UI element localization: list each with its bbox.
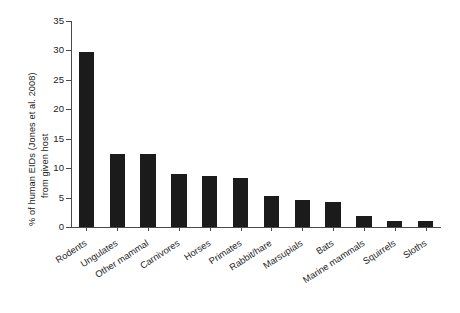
bar-marine-mammals	[356, 216, 371, 227]
y-tick-label-text: 35	[38, 16, 64, 26]
y-tick-label-text: 20	[38, 104, 64, 114]
y-tick-label-text: 25	[38, 75, 64, 85]
y-tick-label-text: 5	[38, 193, 64, 203]
x-tick-11	[426, 227, 427, 231]
y-axis-title-line-1: % of human EIDs (Jones et al. 2008)	[27, 72, 37, 226]
y-tick-label-20: 20	[36, 104, 64, 114]
x-tick-label-squirrels: Squirrels	[361, 238, 397, 266]
y-tick-label-text: 30	[38, 45, 64, 55]
bar-rodents	[79, 52, 94, 227]
y-tick-label-30: 30	[36, 45, 64, 55]
x-tick-2	[148, 227, 149, 231]
bar-sloths	[418, 221, 433, 227]
y-tick-label-text: 10	[38, 163, 64, 173]
y-tick-label-15: 15	[36, 134, 64, 144]
y-tick-label-25: 25	[36, 75, 64, 85]
bar-rabbit-hare	[264, 196, 279, 227]
y-tick-0	[66, 227, 72, 228]
bar-primates	[233, 178, 248, 227]
x-tick-1	[117, 227, 118, 231]
bar-carnivores	[171, 174, 186, 227]
x-tick-label-bats: Bats	[314, 238, 335, 257]
x-axis-line	[71, 227, 441, 228]
bar-series	[71, 21, 441, 227]
y-tick-label-0: 0	[36, 222, 64, 232]
bar-other-mammal	[140, 154, 155, 227]
bar-squirrels	[387, 221, 402, 227]
y-tick-label-35: 35	[36, 16, 64, 26]
x-tick-5	[241, 227, 242, 231]
x-tick-4	[210, 227, 211, 231]
x-axis-labels: RodentsUngulatesOther mammalCarnivoresHo…	[0, 232, 460, 312]
x-tick-6	[271, 227, 272, 231]
bar-marsupials	[295, 200, 310, 227]
x-tick-label-sloths: Sloths	[401, 238, 428, 260]
x-tick-7	[302, 227, 303, 231]
y-axis-title: % of human EIDs (Jones et al. 2008) from…	[12, 0, 52, 250]
y-tick-label-10: 10	[36, 163, 64, 173]
x-tick-10	[395, 227, 396, 231]
bar-horses	[202, 176, 217, 227]
x-tick-0	[86, 227, 87, 231]
bar-ungulates	[110, 154, 125, 227]
x-tick-3	[179, 227, 180, 231]
bar-bats	[325, 202, 340, 227]
y-tick-label-text: 15	[38, 134, 64, 144]
y-tick-label-5: 5	[36, 193, 64, 203]
x-tick-9	[364, 227, 365, 231]
x-tick-8	[333, 227, 334, 231]
y-tick-label-text: 0	[38, 222, 64, 232]
bar-chart-figure: % of human EIDs (Jones et al. 2008) from…	[0, 0, 460, 313]
